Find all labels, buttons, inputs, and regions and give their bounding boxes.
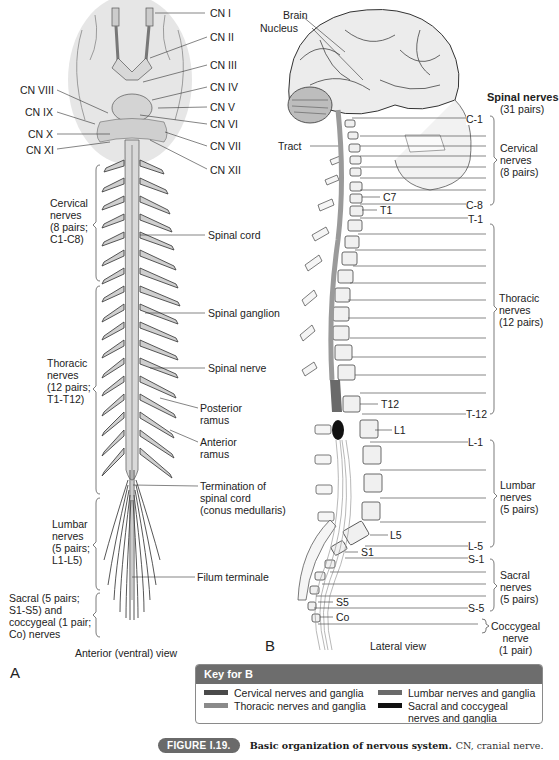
label-spinal-nerve: Spinal nerve bbox=[208, 362, 266, 374]
label-tract: Tract bbox=[278, 140, 302, 152]
label-lumbar-nerves-a: Lumbar nerves (5 pairs; L1-L5) bbox=[52, 518, 90, 566]
level-l5: L-5 bbox=[468, 540, 483, 552]
caption-note: CN, cranial nerve. bbox=[456, 740, 544, 751]
label-s1: S1 bbox=[361, 546, 374, 558]
spinal-nerves-title: Spinal nerves bbox=[487, 91, 559, 103]
posterior-processes bbox=[298, 156, 342, 600]
panel-a-leaders bbox=[132, 235, 205, 577]
label-cn-xii: CN XII bbox=[210, 164, 241, 176]
view-label-lateral: Lateral view bbox=[370, 640, 426, 652]
label-spinal-cord: Spinal cord bbox=[208, 229, 261, 241]
key-label-lumbar: Lumbar nerves and ganglia bbox=[408, 687, 535, 699]
key-label-cervical: Cervical nerves and ganglia bbox=[234, 687, 364, 699]
level-l1: L-1 bbox=[468, 436, 483, 448]
label-cn-vi: CN VI bbox=[210, 118, 238, 130]
label-brain: Brain bbox=[283, 9, 308, 21]
key-item-cervical: Cervical nerves and ganglia bbox=[204, 687, 364, 699]
panel-letter-b: B bbox=[265, 637, 275, 654]
swatch-thoracic bbox=[204, 703, 228, 708]
panel-letter-a: A bbox=[10, 664, 20, 681]
label-nucleus: Nucleus bbox=[260, 22, 298, 34]
label-c7: C7 bbox=[383, 191, 396, 203]
key-item-lumbar: Lumbar nerves and ganglia bbox=[378, 687, 535, 699]
label-lumbar-nerves-b: Lumbar nerves (5 pairs) bbox=[500, 479, 539, 515]
level-c8: C-8 bbox=[466, 199, 483, 211]
label-l5: L5 bbox=[390, 529, 402, 541]
label-thoracic-nerves-a: Thoracic nerves (12 pairs; T1-T12) bbox=[47, 357, 91, 405]
label-cn-xi: CN XI bbox=[26, 144, 54, 156]
key-label-thoracic: Thoracic nerves and ganglia bbox=[234, 700, 366, 712]
label-cn-vii: CN VII bbox=[210, 140, 241, 152]
level-s5: S-5 bbox=[468, 602, 484, 614]
key-label-sacral: Sacral and coccygeal nerves and ganglia bbox=[408, 700, 508, 724]
brain-lateral-view bbox=[288, 9, 471, 190]
label-cn-iii: CN III bbox=[210, 59, 237, 71]
level-t1: T-1 bbox=[468, 213, 483, 225]
label-l1: L1 bbox=[394, 424, 406, 436]
label-cervical-nerves-b: Cervical nerves (8 pairs) bbox=[500, 142, 539, 178]
label-cn-ix: CN IX bbox=[25, 106, 53, 118]
figure-caption: FIGURE I.19. Basic organization of nervo… bbox=[158, 738, 543, 753]
spinal-nerves-anterior bbox=[102, 160, 180, 478]
key-title: Key for B bbox=[196, 665, 542, 684]
label-cn-v: CN V bbox=[210, 101, 235, 113]
label-cervical-nerves-a: Cervical nerves (8 pairs; C1-C8) bbox=[50, 197, 88, 245]
label-cn-ii: CN II bbox=[210, 31, 234, 43]
view-label-anterior: Anterior (ventral) view bbox=[75, 647, 177, 659]
key-item-thoracic: Thoracic nerves and ganglia bbox=[204, 700, 366, 712]
label-cn-iv: CN IV bbox=[210, 81, 238, 93]
panel-a-brackets bbox=[93, 165, 100, 637]
label-s5: S5 bbox=[336, 596, 349, 608]
level-s1: S-1 bbox=[468, 553, 484, 565]
label-sacral-coccygeal-a: Sacral (5 pairs; S1-S5) and coccygeal (1… bbox=[9, 592, 91, 640]
label-anterior-ramus: Anterior ramus bbox=[200, 436, 237, 460]
label-thoracic-nerves-b: Thoracic nerves (12 pairs) bbox=[499, 292, 543, 328]
label-t1: T1 bbox=[380, 204, 392, 216]
spinal-nerves-count: (31 pairs) bbox=[500, 103, 544, 115]
label-filum-terminale: Filum terminale bbox=[197, 571, 269, 583]
label-cn-x: CN X bbox=[28, 128, 53, 140]
swatch-sacral bbox=[378, 703, 402, 708]
level-c1: C-1 bbox=[466, 113, 483, 125]
label-co: Co bbox=[336, 611, 349, 623]
figure-badge: FIGURE I.19. bbox=[158, 738, 240, 753]
key-for-b: Key for B Cervical nerves and ganglia Th… bbox=[195, 664, 543, 724]
label-sacral-nerves-b: Sacral nerves (5 pairs) bbox=[500, 569, 539, 605]
level-t12: T-12 bbox=[466, 408, 487, 420]
label-cn-i: CN I bbox=[210, 7, 231, 19]
label-posterior-ramus: Posterior ramus bbox=[200, 402, 242, 426]
key-item-sacral: Sacral and coccygeal nerves and ganglia bbox=[378, 700, 508, 724]
label-conus-medullaris: Termination of spinal cord (conus medull… bbox=[200, 480, 286, 516]
label-coccygeal-nerve-b: Coccygeal nerve (1 pair) bbox=[491, 620, 540, 656]
label-t12: T12 bbox=[381, 398, 399, 410]
label-spinal-ganglion: Spinal ganglion bbox=[208, 307, 280, 319]
swatch-lumbar bbox=[378, 690, 402, 695]
caption-title: Basic organization of nervous system. bbox=[250, 740, 452, 751]
swatch-cervical bbox=[204, 690, 228, 695]
label-cn-viii: CN VIII bbox=[20, 84, 54, 96]
spinal-cord-anterior bbox=[125, 140, 139, 600]
